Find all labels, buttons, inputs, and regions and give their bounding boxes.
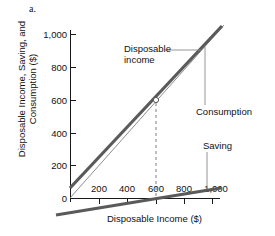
break-even-point-marker <box>153 97 158 102</box>
y-axis-title: Disposable Income, Saving, and Consumpti… <box>16 4 38 174</box>
chart-figure: a. 1,000 800 600 400 200 0 200 400 600 8… <box>0 0 275 236</box>
disposable-income-label: Disposable income <box>124 44 171 65</box>
x-axis-title: Disposable Income ($) <box>72 213 237 224</box>
disposable-income-label-line2: income <box>124 55 171 66</box>
saving-label: Saving <box>203 141 232 152</box>
consumption-label: Consumption <box>196 107 252 118</box>
disposable-income-label-line1: Disposable <box>124 44 171 55</box>
saving-line <box>56 188 221 215</box>
series-layer <box>0 0 275 236</box>
plot-area: 1,000 800 600 400 200 0 200 400 600 800 … <box>0 0 275 236</box>
